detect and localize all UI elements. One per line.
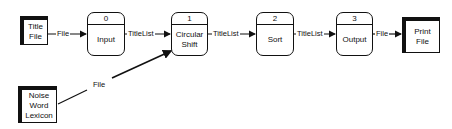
flow-label: File bbox=[92, 80, 106, 89]
process-number: 0 bbox=[88, 13, 124, 25]
file-print-file: PrintFile bbox=[402, 17, 440, 53]
process-number: 1 bbox=[172, 13, 207, 25]
file-label-line: Lexicon bbox=[25, 111, 53, 120]
file-label-line: Print bbox=[414, 27, 430, 36]
process-name: Shift bbox=[181, 40, 197, 49]
file-label-line: Noise bbox=[29, 91, 49, 100]
process-name: Output bbox=[342, 35, 366, 45]
file-title-file: TitleFile bbox=[20, 16, 48, 45]
process-sort: 2 Sort bbox=[256, 12, 294, 56]
arrow-lexicon-segment bbox=[58, 90, 87, 104]
flow-label: TitleList bbox=[212, 29, 240, 38]
process-output: 3 Output bbox=[336, 12, 373, 56]
flow-label: File bbox=[375, 29, 389, 38]
process-input: 0 Input bbox=[87, 12, 125, 56]
flow-label: File bbox=[56, 29, 70, 38]
process-number: 2 bbox=[257, 13, 293, 25]
file-label-line: Word bbox=[30, 101, 49, 110]
process-circular-shift: 1 CircularShift bbox=[171, 12, 208, 56]
file-label-line: Title bbox=[28, 22, 43, 31]
flow-label: TitleList bbox=[296, 29, 324, 38]
process-name: Input bbox=[97, 35, 115, 45]
process-name: Circular bbox=[176, 30, 204, 39]
flow-label: TitleList bbox=[127, 29, 155, 38]
process-number: 3 bbox=[337, 13, 372, 25]
file-label-line: File bbox=[416, 37, 429, 46]
process-name: Sort bbox=[268, 35, 283, 45]
file-noise-word-lexicon: NoiseWordLexicon bbox=[18, 86, 57, 123]
flow-arrows bbox=[0, 0, 452, 129]
file-label-line: File bbox=[29, 32, 42, 41]
